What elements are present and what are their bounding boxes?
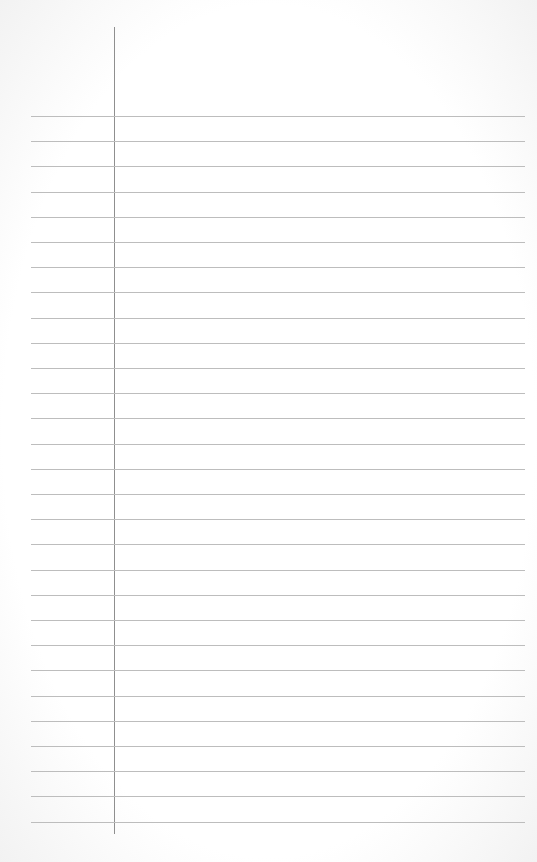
ruled-line (31, 444, 525, 445)
ruled-line (31, 292, 525, 293)
ruled-line (31, 620, 525, 621)
ruled-line (31, 645, 525, 646)
ruled-line (31, 746, 525, 747)
ruled-line (31, 670, 525, 671)
ruled-line (31, 469, 525, 470)
ruled-line (31, 418, 525, 419)
ruled-line (31, 393, 525, 394)
ruled-line (31, 368, 525, 369)
ruled-line (31, 519, 525, 520)
ruled-line (31, 318, 525, 319)
ruled-line (31, 595, 525, 596)
ruled-line (31, 192, 525, 193)
ruled-line (31, 822, 525, 823)
ruled-paper-sheet (0, 0, 537, 862)
ruled-line (31, 343, 525, 344)
ruled-line (31, 166, 525, 167)
ruled-line (31, 494, 525, 495)
ruled-line (31, 242, 525, 243)
ruled-line (31, 721, 525, 722)
ruled-line (31, 141, 525, 142)
ruled-line (31, 696, 525, 697)
ruled-line (31, 116, 525, 117)
ruled-line (31, 544, 525, 545)
margin-line (114, 27, 115, 834)
ruled-line (31, 771, 525, 772)
ruled-line (31, 267, 525, 268)
ruled-line (31, 796, 525, 797)
ruled-line (31, 217, 525, 218)
ruled-line (31, 570, 525, 571)
